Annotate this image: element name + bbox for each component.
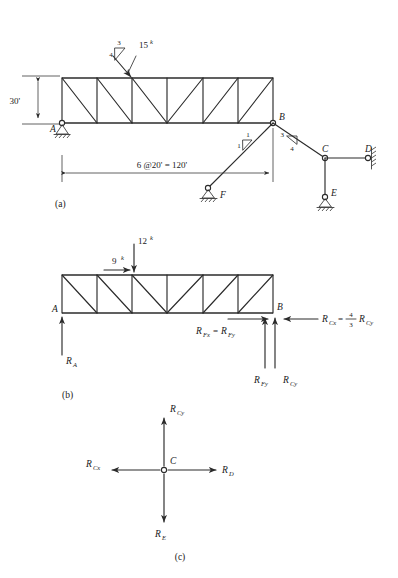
height-dim-label: 30' [9,96,20,106]
truss-b [62,275,273,313]
fraction-denominator: 3 [349,321,353,329]
force-rd-label: R [221,465,228,475]
load-15k-a [113,56,136,77]
bf-slope-run-label: 1 [237,142,241,150]
joint-c-label-c: C [170,456,177,466]
member-bf [208,123,273,188]
load-12k-label: 12 [138,236,147,246]
panel-b-caption: (b) [62,390,73,401]
force-rcx-sub: Cx [93,464,100,471]
load-9k-unit: k [121,254,124,261]
reaction-rfx-label: R [195,326,202,336]
reaction-ra-sub: A [72,361,77,368]
support-e-pin [317,199,334,211]
reaction-rcy2-sub: Cy [366,319,373,326]
load-magnitude-label: 15 [139,40,149,50]
panel-c: C R Cy R Cx R D R E (c) [85,404,234,563]
slope-triangle-bc [287,136,297,144]
reaction-rcx-equals: = [338,314,343,324]
force-rcy-sub: Cy [177,409,184,416]
support-d-wall [372,147,377,169]
fraction-four-thirds: 4 3 [346,311,356,329]
load-12k-unit: k [150,234,153,241]
joint-d-label: D [364,144,372,154]
bc-slope-rise-label: 3 [281,131,285,139]
truss-a [62,78,273,123]
load-9k-label: 9 [112,256,117,266]
reaction-rfy-eq-sub: Fy [227,331,235,338]
panel-a-caption: (a) [55,199,66,210]
reaction-rfy-sub: Fy [260,380,268,387]
span-dim-label: 6 @20' = 120' [137,160,188,170]
panel-c-caption: (c) [175,552,186,563]
bf-slope-rise-label: 1 [246,131,250,139]
bc-slope-run-label: 4 [290,145,294,153]
joint-a-label-b: A [51,304,58,314]
joint-e-label: E [330,188,337,198]
joint-c-marker-c [161,467,166,472]
load-unit-label: k [150,38,153,45]
reaction-ra-label: R [65,356,72,366]
reaction-rcx-label: R [321,314,328,324]
reaction-rcy-sub: Cy [290,380,297,387]
joint-c-label: C [322,144,329,154]
member-bc [273,123,325,158]
support-f-pin [200,190,217,202]
joint-b-label-b: B [277,302,283,312]
reaction-rfx-sub: Fx [202,331,210,338]
figure-page: 30' [0,0,398,578]
reaction-rcy2-label: R [358,314,365,324]
force-rcy-label: R [169,404,176,414]
joint-b-label: B [279,112,285,122]
force-rcx-label: R [85,459,92,469]
force-re-label: R [154,529,161,539]
panel-b: 9 k 12 k A B R A R Fx = R F [51,234,373,401]
joint-d-marker [365,155,370,160]
reaction-rcx-sub: Cx [329,319,336,326]
load-slope-run-label: 4 [109,51,113,59]
reaction-rcy-label: R [282,375,289,385]
joint-f-label: F [219,190,226,200]
support-a-pin [54,125,70,138]
reaction-rfy-eq-label: R [220,326,227,336]
engineering-figure-svg: 30' [0,0,398,578]
slope-triangle-load-a [115,48,125,60]
load-slope-rise-label: 3 [117,39,121,47]
force-rd-sub: D [228,470,234,477]
panel-a: 30' [9,38,376,211]
reaction-rfx-equals: = [213,326,218,336]
dimension-height [22,76,60,124]
force-re-sub: E [161,534,166,541]
fraction-numerator: 4 [349,311,353,319]
reaction-rfy-label: R [253,375,260,385]
joint-a-label: A [49,124,56,134]
